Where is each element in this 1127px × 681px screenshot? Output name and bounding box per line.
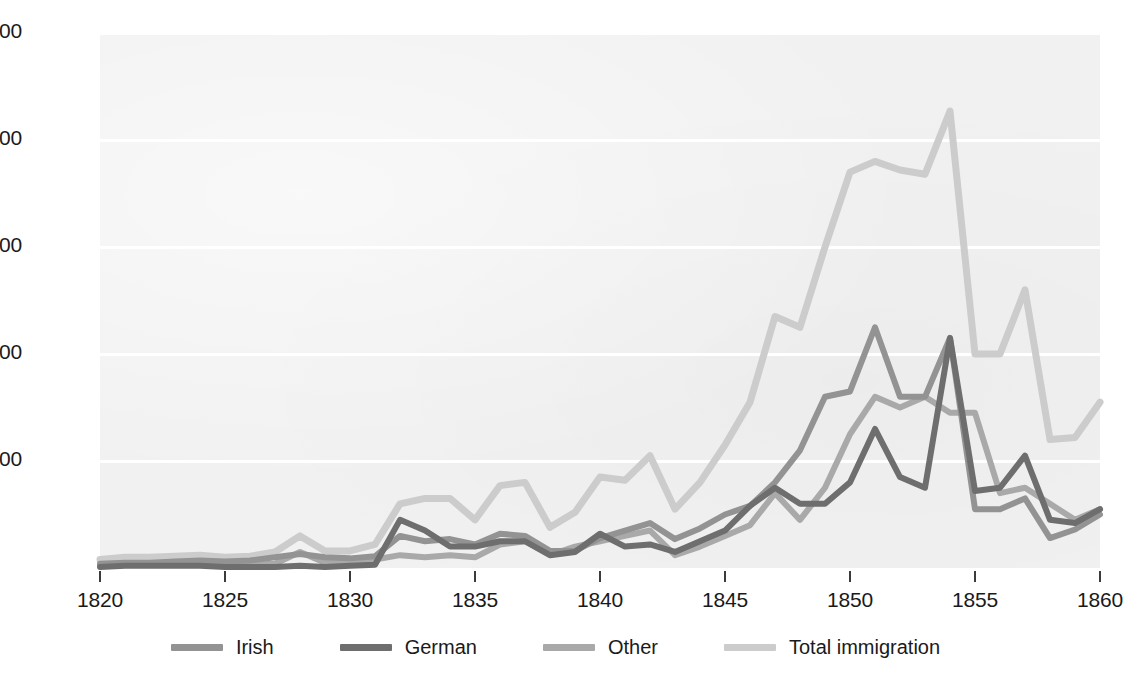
y-tick-label: 400,000 bbox=[0, 126, 22, 150]
series-line-irish bbox=[100, 327, 1100, 563]
y-tick-label: 100,000 bbox=[0, 447, 22, 471]
x-tick-label: 1840 bbox=[540, 588, 660, 612]
legend-item-other[interactable]: Other bbox=[543, 636, 658, 659]
x-tick-label: 1835 bbox=[415, 588, 535, 612]
legend-swatch-icon bbox=[340, 644, 392, 651]
legend-swatch-icon bbox=[171, 644, 223, 651]
legend-label: Other bbox=[608, 636, 658, 659]
chart-legend: IrishGermanOtherTotal immigration bbox=[0, 636, 1111, 659]
x-tick-label: 1855 bbox=[915, 588, 1035, 612]
x-tick-mark bbox=[99, 571, 101, 582]
x-tick-label: 1820 bbox=[40, 588, 160, 612]
plot-area bbox=[100, 33, 1100, 568]
x-tick-mark bbox=[599, 571, 601, 582]
y-tick-label: 300,000 bbox=[0, 233, 22, 257]
series-line-german bbox=[100, 338, 1100, 567]
x-tick-label: 1830 bbox=[290, 588, 410, 612]
x-tick-label: 1825 bbox=[165, 588, 285, 612]
x-tick-label: 1850 bbox=[790, 588, 910, 612]
x-tick-label: 1845 bbox=[665, 588, 785, 612]
x-tick-mark bbox=[1099, 571, 1101, 582]
series-lines bbox=[100, 33, 1100, 568]
x-tick-mark bbox=[849, 571, 851, 582]
x-tick-mark bbox=[474, 571, 476, 582]
x-tick-mark bbox=[349, 571, 351, 582]
legend-label: Total immigration bbox=[789, 636, 940, 659]
legend-item-german[interactable]: German bbox=[340, 636, 477, 659]
legend-swatch-icon bbox=[543, 644, 595, 651]
legend-item-irish[interactable]: Irish bbox=[171, 636, 274, 659]
x-tick-label: 1860 bbox=[1040, 588, 1127, 612]
x-tick-mark bbox=[224, 571, 226, 582]
x-tick-mark bbox=[724, 571, 726, 582]
legend-label: Irish bbox=[236, 636, 274, 659]
x-tick-mark bbox=[974, 571, 976, 582]
legend-swatch-icon bbox=[724, 644, 776, 651]
y-tick-label: 500,000 bbox=[0, 19, 22, 43]
legend-item-total-immigration[interactable]: Total immigration bbox=[724, 636, 940, 659]
legend-label: German bbox=[405, 636, 477, 659]
y-tick-label: 200,000 bbox=[0, 340, 22, 364]
